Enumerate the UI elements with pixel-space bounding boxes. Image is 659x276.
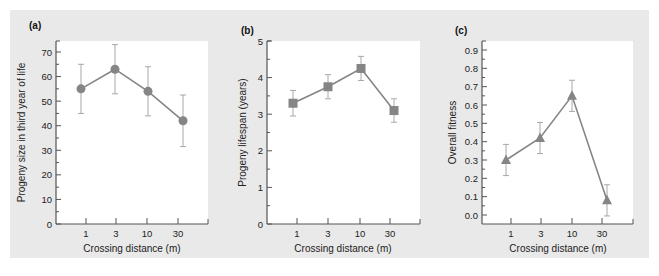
y-tick-label: 10 bbox=[41, 194, 52, 205]
data-point-square bbox=[357, 64, 366, 73]
x-tick-label: 30 bbox=[173, 228, 184, 239]
y-tick-label: 0.2 bbox=[465, 173, 478, 184]
y-tick-label: 0.7 bbox=[465, 81, 478, 92]
y-tick-label: 20 bbox=[41, 169, 52, 180]
y-tick-label: 40 bbox=[41, 120, 52, 131]
y-tick-label: 50 bbox=[41, 96, 52, 107]
chart-b: (b) 012345 131030 Crossing distance (m) … bbox=[237, 25, 420, 254]
y-tick-label: 0 bbox=[258, 219, 263, 230]
y-axis-title: Overall fitness bbox=[447, 101, 458, 164]
plot-area bbox=[267, 41, 420, 224]
y-tick-label: 0.6 bbox=[465, 100, 478, 111]
y-tick-label: 5 bbox=[258, 36, 263, 47]
x-tick-label: 30 bbox=[385, 228, 396, 239]
x-tick-label: 1 bbox=[508, 228, 513, 239]
y-tick-label: 0 bbox=[47, 219, 52, 230]
data-point-circle bbox=[144, 87, 153, 96]
figure-canvas: (a) 010203040506070 131030 Crossing dist… bbox=[0, 0, 659, 276]
chart-c: (c) 0.00.10.20.30.40.50.60.70.80.9 13103… bbox=[447, 25, 633, 254]
plot-area bbox=[482, 41, 633, 224]
panel-label: (c) bbox=[455, 25, 467, 36]
x-tick-label: 3 bbox=[538, 228, 543, 239]
data-point-square bbox=[390, 106, 399, 115]
data-point-circle bbox=[77, 84, 86, 93]
x-tick-label: 10 bbox=[355, 228, 366, 239]
y-axis-title: Progeny size in third year of life bbox=[16, 62, 27, 202]
y-tick-label: 0.5 bbox=[465, 118, 478, 129]
data-point-square bbox=[289, 99, 298, 108]
x-tick-label: 30 bbox=[597, 228, 608, 239]
panel-label: (b) bbox=[241, 25, 254, 36]
y-tick-label: 0.4 bbox=[465, 136, 478, 147]
x-tick-label: 1 bbox=[294, 228, 299, 239]
y-tick-label: 0.8 bbox=[465, 63, 478, 74]
x-axis-title: Crossing distance (m) bbox=[83, 243, 180, 254]
y-tick-label: 2 bbox=[258, 145, 263, 156]
chart-a: (a) 010203040506070 131030 Crossing dist… bbox=[16, 20, 208, 254]
data-point-circle bbox=[111, 65, 120, 74]
y-tick-label: 0.1 bbox=[465, 191, 478, 202]
y-tick-label: 1 bbox=[258, 182, 263, 193]
x-tick-label: 1 bbox=[83, 228, 88, 239]
data-point-square bbox=[324, 82, 333, 91]
plot-area bbox=[56, 41, 208, 224]
x-axis-title: Crossing distance (m) bbox=[509, 243, 606, 254]
x-tick-label: 3 bbox=[325, 228, 330, 239]
data-point-circle bbox=[179, 116, 188, 125]
x-tick-label: 3 bbox=[113, 228, 118, 239]
y-tick-label: 3 bbox=[258, 109, 263, 120]
y-tick-label: 0.9 bbox=[465, 45, 478, 56]
x-axis-title: Crossing distance (m) bbox=[294, 243, 391, 254]
x-tick-label: 10 bbox=[567, 228, 578, 239]
y-tick-label: 30 bbox=[41, 145, 52, 156]
y-tick-label: 60 bbox=[41, 71, 52, 82]
y-tick-label: 0.0 bbox=[465, 210, 478, 221]
panel-label: (a) bbox=[29, 20, 41, 31]
y-tick-label: 70 bbox=[41, 47, 52, 58]
y-axis-title: Progeny lifespan (years) bbox=[237, 78, 248, 186]
y-tick-label: 0.3 bbox=[465, 155, 478, 166]
y-tick-label: 4 bbox=[258, 72, 263, 83]
x-tick-label: 10 bbox=[142, 228, 153, 239]
